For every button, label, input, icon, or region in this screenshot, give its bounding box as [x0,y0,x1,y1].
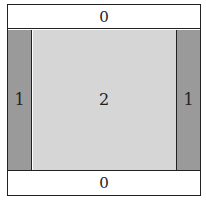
bottom-region: 0 [8,170,200,195]
top-region: 0 [8,5,200,29]
bottom-region-label: 0 [99,174,109,192]
diagram-frame: 0 1 2 1 0 [7,4,201,196]
right-region: 1 [176,30,200,170]
left-region: 1 [8,30,32,170]
right-region-label: 1 [183,90,193,109]
center-region-label: 2 [99,90,109,109]
center-region: 2 [33,30,176,170]
left-region-label: 1 [14,90,24,109]
top-region-label: 0 [99,8,109,26]
